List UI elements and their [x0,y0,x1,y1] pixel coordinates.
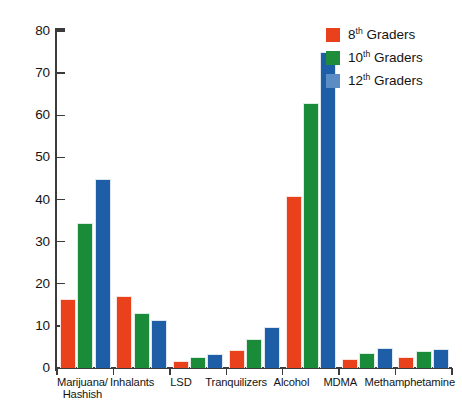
x-axis-category-label: Tranquilizers [205,376,267,410]
x-axis-tick [226,368,227,375]
y-axis-tick-label: 0 [6,361,50,375]
bar [377,348,393,368]
bar [286,196,302,368]
y-axis-top-cap [55,28,65,30]
y-axis-tick-label: 80 [6,24,50,38]
legend-label: 12th Graders [348,74,423,88]
bar [264,327,280,368]
y-axis-tick-label: 20 [6,277,50,291]
y-axis-tick-label: 50 [6,150,50,164]
bar [398,357,414,368]
legend-swatch-icon [326,74,340,88]
bar [116,296,132,368]
x-axis-tick [451,368,452,375]
bar [416,351,432,368]
bar [173,361,189,368]
bar-chart: 01020304050607080 Marijuana/ HashishInha… [0,0,462,410]
bar [95,179,111,368]
y-axis-tick-label: 40 [6,193,50,207]
x-axis-category-label: Marijuana/ Hashish [57,376,108,410]
x-axis-category-label: LSD [157,376,206,410]
bar [320,52,336,368]
x-axis-labels: Marijuana/ HashishInhalantsLSDTranquiliz… [57,376,455,410]
x-axis-category-label: Alcohol [267,376,316,410]
legend-item[interactable]: 12th Graders [326,74,423,88]
x-axis-category-label: MDMA [316,376,365,410]
legend-swatch-icon [326,51,340,65]
x-axis-tick [56,368,57,375]
x-axis-tick [338,368,339,375]
y-axis-tick-label: 70 [6,66,50,80]
bar [60,299,76,369]
x-axis-category-label: Inhalants [108,376,157,410]
bar [359,353,375,368]
bar [229,350,245,368]
bar [207,354,223,368]
legend-swatch-icon [326,28,340,42]
bar-group [113,31,169,368]
bar-group [170,31,226,368]
y-axis-tick-label: 60 [6,108,50,122]
bar [134,313,150,368]
x-axis-tick [395,368,396,375]
legend-item[interactable]: 10th Graders [326,51,423,65]
x-axis-tick [282,368,283,375]
chart-legend: 8th Graders10th Graders12th Graders [326,28,423,88]
x-axis-tick [169,368,170,375]
bar [246,339,262,368]
y-axis-labels: 01020304050607080 [0,0,50,410]
bar [77,223,93,368]
y-axis-tick-label: 10 [6,319,50,333]
legend-label: 8th Graders [348,28,415,42]
bar [190,357,206,368]
x-axis-tick [113,368,114,375]
x-axis-category-label: Methamphetamine [365,376,455,410]
bar [303,103,319,368]
legend-item[interactable]: 8th Graders [326,28,423,42]
bar [151,320,167,368]
legend-label: 10th Graders [348,51,423,65]
bar [342,359,358,368]
bar-group [57,31,113,368]
bar-group [226,31,282,368]
y-axis-tick-label: 30 [6,235,50,249]
bar [433,349,449,368]
